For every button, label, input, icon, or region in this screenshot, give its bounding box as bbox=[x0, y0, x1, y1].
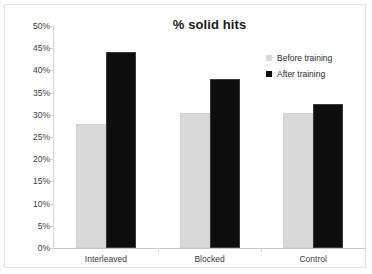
x-axis-category-label: Interleaved bbox=[56, 254, 156, 264]
x-axis-line bbox=[53, 248, 366, 249]
bar-control-before[interactable] bbox=[283, 113, 313, 248]
bar-blocked-after[interactable] bbox=[210, 79, 240, 248]
y-axis-tick-mark bbox=[50, 248, 54, 249]
bar-blocked-before[interactable] bbox=[180, 113, 210, 248]
legend-label: After training bbox=[277, 69, 325, 79]
bar-interleaved-after[interactable] bbox=[106, 52, 136, 248]
y-axis-tick-mark bbox=[50, 181, 54, 182]
y-axis-tick-mark bbox=[50, 70, 54, 71]
bar-group bbox=[76, 26, 136, 248]
y-axis-tick-label: 40% bbox=[10, 65, 50, 75]
y-axis-tick-mark bbox=[50, 159, 54, 160]
y-axis-tick-label: 0% bbox=[10, 243, 50, 253]
y-axis-tick-label: 15% bbox=[10, 176, 50, 186]
legend-item[interactable]: After training bbox=[266, 67, 332, 81]
legend-item[interactable]: Before training bbox=[266, 51, 332, 65]
y-axis-tick-label: 5% bbox=[10, 221, 50, 231]
x-axis-tick-mark bbox=[158, 248, 159, 252]
y-axis-labels: 50%45%40%35%30%25%20%15%10%5%0% bbox=[5, 5, 50, 274]
chart-legend: Before trainingAfter training bbox=[266, 51, 332, 83]
y-axis-tick-mark bbox=[50, 204, 54, 205]
bar-control-after[interactable] bbox=[313, 104, 343, 248]
legend-swatch-before-icon bbox=[266, 55, 272, 61]
x-axis-tick-mark bbox=[261, 248, 262, 252]
legend-label: Before training bbox=[277, 53, 332, 63]
y-axis-tick-mark bbox=[50, 48, 54, 49]
y-axis-tick-label: 35% bbox=[10, 88, 50, 98]
y-axis-tick-label: 20% bbox=[10, 154, 50, 164]
y-axis-tick-label: 50% bbox=[10, 21, 50, 31]
x-axis-category-label: Blocked bbox=[160, 254, 260, 264]
x-axis-tick-mark bbox=[365, 248, 366, 252]
y-axis-tick-label: 10% bbox=[10, 199, 50, 209]
y-axis-tick-mark bbox=[50, 93, 54, 94]
y-axis-tick-label: 25% bbox=[10, 132, 50, 142]
y-axis-tick-mark bbox=[50, 115, 54, 116]
chart-frame: % solid hits 50%45%40%35%30%25%20%15%10%… bbox=[4, 4, 366, 268]
y-axis-tick-label: 30% bbox=[10, 110, 50, 120]
y-axis-tick-label: 45% bbox=[10, 43, 50, 53]
bar-interleaved-before[interactable] bbox=[76, 124, 106, 248]
bar-group bbox=[180, 26, 240, 248]
y-axis-tick-mark bbox=[50, 137, 54, 138]
y-axis-tick-mark bbox=[50, 226, 54, 227]
y-axis-tick-mark bbox=[50, 26, 54, 27]
x-axis-category-label: Control bbox=[263, 254, 363, 264]
legend-swatch-after-icon bbox=[266, 71, 272, 77]
